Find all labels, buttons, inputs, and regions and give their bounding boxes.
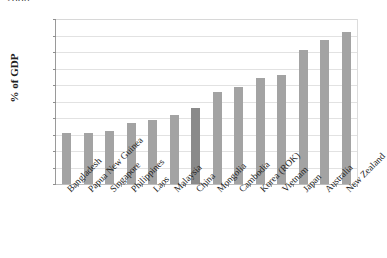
y-axis-tick-mark <box>53 36 56 37</box>
gridline <box>56 19 357 20</box>
gridline <box>56 102 357 103</box>
bar <box>127 123 136 184</box>
x-axis-tick-mark <box>99 184 100 187</box>
y-axis-tick-mark <box>53 85 56 86</box>
chart-title: 2008 <box>6 0 30 1</box>
y-axis-tick-mark <box>53 69 56 70</box>
plot-area: 012345678910 <box>56 19 357 184</box>
gridline <box>56 85 357 86</box>
y-axis-tick-mark <box>53 151 56 152</box>
gridline <box>56 168 357 169</box>
bar <box>320 40 329 184</box>
x-axis-tick-mark <box>121 184 122 187</box>
bar <box>148 120 157 184</box>
gridline <box>56 36 357 37</box>
bar <box>277 75 286 184</box>
y-axis-tick-mark <box>53 168 56 169</box>
x-axis-tick-mark <box>228 184 229 187</box>
x-axis-tick-mark <box>142 184 143 187</box>
bar <box>84 133 93 184</box>
plot-right-border <box>357 19 358 185</box>
y-axis-tick-mark <box>53 135 56 136</box>
x-axis-tick-mark <box>357 184 358 187</box>
bar <box>62 133 71 184</box>
bar <box>105 131 114 184</box>
bar <box>299 50 308 184</box>
x-axis-tick-mark <box>336 184 337 187</box>
y-axis-title: % of GDP <box>8 23 20 133</box>
x-axis-tick-mark <box>293 184 294 187</box>
y-axis-tick-mark <box>53 102 56 103</box>
y-axis-tick-mark <box>53 52 56 53</box>
gridline <box>56 135 357 136</box>
bar <box>170 115 179 184</box>
gridline <box>56 52 357 53</box>
x-axis-tick-mark <box>164 184 165 187</box>
y-axis-tick-mark <box>53 118 56 119</box>
x-axis-tick-mark <box>250 184 251 187</box>
gridline <box>56 69 357 70</box>
bar <box>234 87 243 184</box>
bar <box>342 32 351 184</box>
x-axis-tick-mark <box>271 184 272 187</box>
bar <box>256 78 265 184</box>
x-axis-tick-mark <box>78 184 79 187</box>
x-axis-tick-mark <box>314 184 315 187</box>
bar <box>191 108 200 184</box>
gridline <box>56 118 357 119</box>
bar <box>213 92 222 184</box>
gridline <box>56 151 357 152</box>
x-axis-tick-mark <box>185 184 186 187</box>
x-axis-tick-mark <box>207 184 208 187</box>
y-axis-tick-mark <box>53 19 56 20</box>
y-axis-tick-mark <box>53 184 56 185</box>
